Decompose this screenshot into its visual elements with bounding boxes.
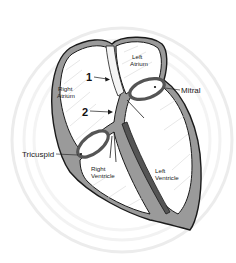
right-atrium-label-line2: Atrium xyxy=(57,92,75,99)
mitral-valve-dot xyxy=(154,86,156,88)
left-ventricle-label-line1: Left xyxy=(155,167,166,174)
heart-diagram: Left Atrium Right Atrium Right Ventricle… xyxy=(0,0,236,263)
right-ventricle-label-line1: Right xyxy=(91,165,106,172)
left-atrium-label-line1: Left xyxy=(132,53,143,60)
tricuspid-valve-dot xyxy=(80,153,82,155)
marker-1-label: 1 xyxy=(86,71,92,83)
heart-diagram-svg: Left Atrium Right Atrium Right Ventricle… xyxy=(0,0,236,263)
right-ventricle-label-line2: Ventricle xyxy=(91,172,115,179)
left-ventricle-label-line2: Ventricle xyxy=(155,174,179,181)
marker-2-label: 2 xyxy=(82,106,88,118)
tricuspid-label: Tricuspid xyxy=(22,150,54,159)
right-atrium-label-line1: Right xyxy=(58,85,73,92)
mitral-label: Mitral xyxy=(181,86,201,95)
left-atrium-label-line2: Atrium xyxy=(130,60,148,67)
